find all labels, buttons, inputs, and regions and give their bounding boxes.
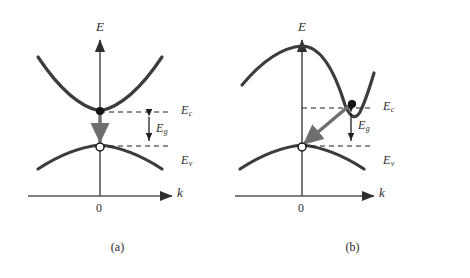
eg-label-sub: g [164,127,168,136]
electron-marker [96,107,104,115]
energy-axis-label: E [298,20,306,33]
ec-label-base: E [383,99,390,113]
ev-label: Ev [383,154,394,168]
ev-label-base: E [383,153,390,167]
hole-marker [298,143,306,151]
energy-axis-label: E [96,20,104,33]
ec-label-sub: c [189,109,193,118]
panel-a-caption: (a) [0,240,235,255]
electron-marker [348,100,356,108]
panel-a-direct-bandgap: E k 0 Ec Ev Eg (a) [0,0,235,278]
eg-label: Eg [358,119,370,133]
ec-label: Ec [383,100,394,114]
eg-label-base: E [156,121,163,135]
eg-label-base: E [358,118,365,132]
momentum-axis-label: k [379,186,385,199]
ev-label-base: E [181,153,188,167]
ev-label-sub: v [189,159,193,168]
panel-b-plot [235,0,470,278]
recombination-arrow [305,105,350,143]
panel-a-plot [0,0,235,278]
ev-label-sub: v [391,159,395,168]
ec-label: Ec [181,104,192,118]
hole-marker [96,143,104,151]
panel-b-caption: (b) [235,240,470,255]
ev-label: Ev [181,154,192,168]
panel-b-indirect-bandgap: E k 0 Ec Ev Eg (b) [235,0,470,278]
ec-label-sub: c [391,105,395,114]
eg-label-sub: g [366,124,370,133]
momentum-axis-label: k [177,186,183,199]
origin-label: 0 [298,202,304,214]
band-structure-figure: E k 0 Ec Ev Eg (a) [0,0,470,278]
ec-label-base: E [181,103,188,117]
eg-label: Eg [156,122,168,136]
origin-label: 0 [96,202,102,214]
